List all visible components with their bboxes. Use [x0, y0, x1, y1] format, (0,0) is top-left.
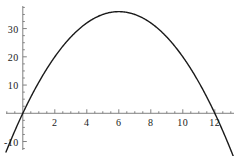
y-tick-label: -10 [4, 136, 19, 147]
x-tick-label: 10 [177, 117, 188, 128]
x-tick-label: 8 [148, 117, 154, 128]
plot-canvas [0, 0, 240, 156]
y-tick-label: 20 [8, 51, 19, 62]
axes-group [6, 6, 234, 150]
x-tick-label: 12 [209, 117, 220, 128]
x-tick-label: 2 [52, 117, 58, 128]
x-tick-label: 6 [116, 117, 122, 128]
y-tick-label: 10 [8, 80, 19, 91]
x-tick-label: 4 [84, 117, 90, 128]
parabola-plot: 24681012 -10102030 [0, 0, 240, 156]
parabola-curve [6, 12, 234, 156]
y-tick-label: 30 [8, 23, 19, 34]
